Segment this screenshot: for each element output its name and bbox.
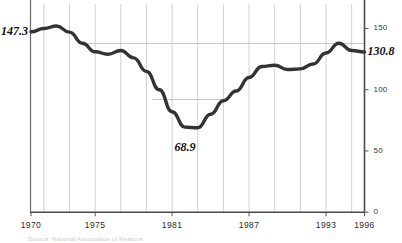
vertical-gridlines — [44, 4, 352, 212]
chart-container: 050100150 197019751981198719931996 147.3… — [0, 0, 402, 243]
line-chart-plot — [0, 0, 402, 243]
x-axis-label-1996: 1996 — [354, 220, 375, 230]
y-axis-label-0: 0 — [374, 207, 379, 216]
x-axis-label-1981: 1981 — [162, 220, 183, 230]
annotation-min-value: 68.9 — [174, 140, 195, 155]
source-note: Source: National Association of Realtors — [28, 236, 143, 242]
y-axis-label-100: 100 — [374, 85, 388, 94]
x-axis-label-1975: 1975 — [85, 220, 106, 230]
x-axis-label-1970: 1970 — [21, 220, 42, 230]
x-axis-label-1987: 1987 — [239, 220, 260, 230]
y-axis-label-50: 50 — [374, 146, 383, 155]
x-axis-label-1993: 1993 — [316, 220, 337, 230]
annotation-end-value: 130.8 — [368, 44, 395, 59]
annotation-start-value: 147.3 — [1, 24, 28, 39]
y-axis-label-150: 150 — [374, 23, 388, 32]
